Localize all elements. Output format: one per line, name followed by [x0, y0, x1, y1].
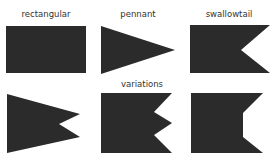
- double-swallowtail-variation-shape: [101, 93, 172, 153]
- rectangular-flag-shape: [6, 26, 86, 73]
- square-notch-variation-shape: [191, 93, 263, 153]
- shapes-canvas: [0, 0, 276, 158]
- swallowtail-flag-shape: [190, 25, 270, 73]
- angled-swallowtail-variation-shape: [7, 94, 80, 153]
- pennant-flag-shape: [101, 26, 175, 74]
